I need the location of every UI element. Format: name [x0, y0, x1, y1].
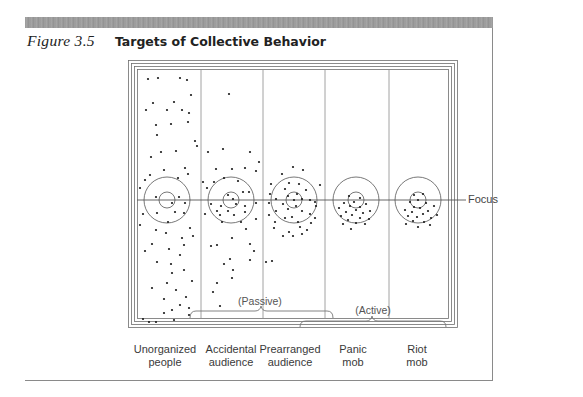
passive-group-label: (Passive) — [225, 295, 295, 307]
category-label-riot-mob: Riot mob — [377, 343, 457, 369]
passive-brace — [190, 306, 333, 318]
active-group-label: (Active) — [338, 304, 408, 316]
focus-label: Focus — [468, 193, 498, 205]
category-line2: mob — [377, 356, 457, 369]
diagram-frame — [129, 61, 458, 328]
category-line1: Riot — [377, 343, 457, 356]
